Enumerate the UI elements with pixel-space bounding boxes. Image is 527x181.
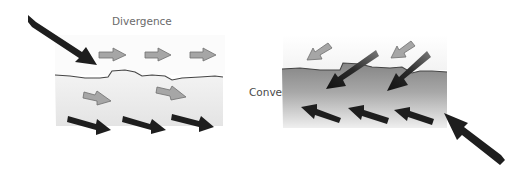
convergence-panel [282,35,505,165]
divergence-panel [28,15,225,135]
ocean-circulation-diagram [0,0,527,181]
convergence-wind-arrow-icon [444,113,505,165]
divergence-water [55,70,223,126]
